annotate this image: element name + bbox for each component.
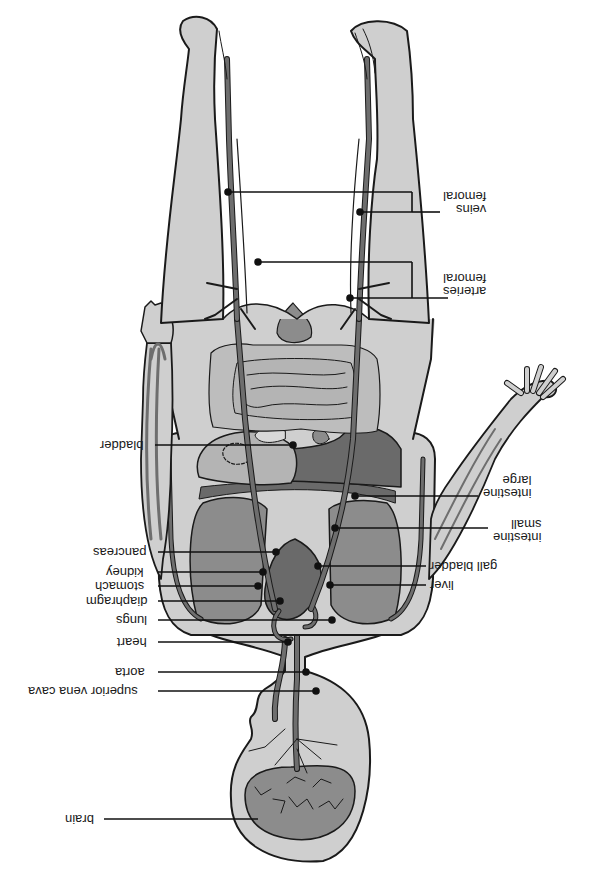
label-femoral-arteries-line1: arteries bbox=[443, 285, 486, 298]
label-femoral-arteries-line2: femoral bbox=[443, 272, 486, 285]
label-gall-bladder: gall bladder bbox=[430, 560, 497, 573]
label-stomach: stomach bbox=[95, 580, 144, 593]
label-kidney: kidney bbox=[106, 566, 144, 579]
torso bbox=[157, 303, 435, 640]
legs bbox=[161, 17, 429, 329]
label-femoral-veins-line2: femoral bbox=[443, 190, 486, 203]
label-liver: liver bbox=[430, 579, 454, 592]
label-pancreas: pancreas bbox=[93, 546, 146, 559]
label-small-intestine: intestine small bbox=[493, 518, 541, 544]
label-bladder: bladder bbox=[100, 439, 143, 452]
label-brain: brain bbox=[65, 813, 94, 826]
label-large-intestine: intestine large bbox=[483, 474, 531, 500]
label-lungs: lungs bbox=[116, 614, 147, 627]
label-aorta: aorta bbox=[115, 666, 145, 679]
label-femoral-veins: veins femoral bbox=[443, 190, 486, 216]
label-small-intestine-line1: intestine bbox=[493, 531, 541, 544]
label-diaphragm: diaphragm bbox=[86, 595, 147, 608]
label-superior-vena-cava: superior vena cava bbox=[28, 685, 138, 698]
label-large-intestine-line1: intestine bbox=[483, 487, 531, 500]
brain-organ bbox=[245, 766, 355, 840]
label-femoral-veins-line1: veins bbox=[443, 203, 486, 216]
circulatory-system-figure bbox=[0, 0, 591, 879]
label-femoral-arteries: arteries femoral bbox=[443, 272, 486, 298]
bladder-organ bbox=[277, 303, 312, 343]
label-heart: heart bbox=[117, 636, 147, 649]
